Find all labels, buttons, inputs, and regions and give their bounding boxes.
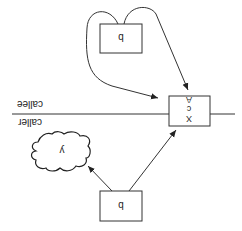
diagram-canvas: callee caller A c X b b y <box>0 0 242 231</box>
arrow-bottom-to-frame <box>129 130 176 191</box>
callee-label: callee <box>17 99 44 110</box>
frame-row-x: X <box>186 114 192 124</box>
cloud-label: y <box>60 145 65 156</box>
bottom-box-label: b <box>118 200 124 211</box>
frame-row-a: A <box>186 95 192 105</box>
arrow-bottom-to-cloud <box>88 166 112 191</box>
top-box-label: b <box>118 32 124 43</box>
frame-row-c: c <box>186 104 191 114</box>
caller-label: caller <box>17 117 42 128</box>
